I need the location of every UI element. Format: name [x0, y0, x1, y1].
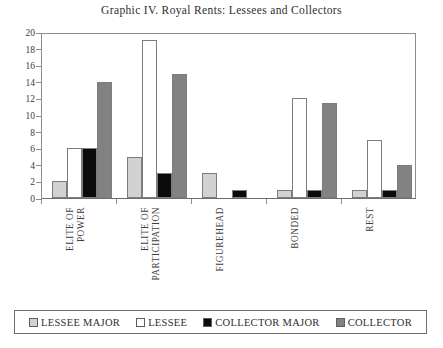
bar [157, 173, 172, 198]
x-axis-tick-mark [116, 199, 117, 204]
y-axis-tick: 14 [0, 77, 41, 89]
bar [232, 190, 247, 198]
x-axis-label: FIGUREHEAD [215, 207, 226, 271]
x-axis-tick-mark [41, 199, 42, 204]
bar [217, 196, 232, 198]
y-axis-tick: 2 [0, 176, 41, 188]
bar [202, 173, 217, 198]
bar [97, 82, 112, 198]
x-axis-label: BONDED [290, 207, 301, 249]
x-axis-label-line: FIGUREHEAD [215, 207, 226, 271]
legend-label: LESSEE [148, 317, 187, 328]
y-axis-tick: 8 [0, 127, 41, 139]
bar [172, 74, 187, 199]
bar [352, 190, 367, 198]
bar [277, 190, 292, 198]
bar [142, 40, 157, 198]
bar [67, 148, 82, 198]
y-axis-tick: 10 [0, 110, 41, 122]
legend-swatch-icon [29, 318, 38, 327]
bar-group [352, 34, 412, 198]
chart-figure: Graphic IV. Royal Rents: Lessees and Col… [0, 0, 443, 348]
bar [367, 140, 382, 198]
bar-group [277, 34, 337, 198]
bar-group [52, 34, 112, 198]
y-axis: 02468101214161820 [0, 33, 41, 199]
y-axis-tick: 4 [0, 160, 41, 172]
bar [127, 157, 142, 199]
x-axis-label-line: ELITE OF [140, 207, 151, 280]
y-axis-tick: 0 [0, 193, 41, 205]
legend-item[interactable]: LESSEE [136, 317, 187, 328]
legend-swatch-icon [136, 318, 145, 327]
x-axis-label-line: BONDED [290, 207, 301, 249]
bar [292, 98, 307, 198]
x-axis-tick-mark [341, 199, 342, 204]
y-axis-tick: 18 [0, 44, 41, 56]
bar [382, 190, 397, 198]
plot-area [41, 33, 416, 199]
x-axis-tick-mark [266, 199, 267, 204]
x-axis-label: ELITE OFPOWER [65, 207, 86, 251]
chart-title: Graphic IV. Royal Rents: Lessees and Col… [0, 4, 443, 16]
x-axis-label: REST [365, 207, 376, 232]
legend-label: LESSEE MAJOR [41, 317, 120, 328]
x-axis-label-line: REST [365, 207, 376, 232]
bar [322, 103, 337, 198]
y-axis-tick: 20 [0, 27, 41, 39]
bar [397, 165, 412, 198]
x-axis-label-line: ELITE OF [65, 207, 76, 251]
legend-item[interactable]: LESSEE MAJOR [29, 317, 120, 328]
legend-item[interactable]: COLLECTOR [336, 317, 412, 328]
legend-item[interactable]: COLLECTOR MAJOR [203, 317, 319, 328]
x-axis-label-line: PARTICIPATION [151, 207, 162, 280]
legend-label: COLLECTOR MAJOR [215, 317, 319, 328]
x-axis-tick-mark [191, 199, 192, 204]
legend-label: COLLECTOR [348, 317, 412, 328]
bar-group [127, 34, 187, 198]
legend-swatch-icon [203, 318, 212, 327]
bar [82, 148, 97, 198]
bar-group [202, 34, 262, 198]
chart-legend: LESSEE MAJORLESSEECOLLECTOR MAJORCOLLECT… [14, 310, 427, 334]
bar [307, 190, 322, 198]
bars-layer [42, 34, 415, 198]
x-axis: ELITE OFPOWERELITE OFPARTICIPATIONFIGURE… [41, 199, 416, 294]
x-axis-label: ELITE OFPARTICIPATION [140, 207, 161, 280]
x-axis-label-line: POWER [76, 207, 87, 251]
legend-swatch-icon [336, 318, 345, 327]
y-axis-tick: 6 [0, 143, 41, 155]
bar [52, 181, 67, 198]
y-axis-tick: 12 [0, 93, 41, 105]
y-axis-tick: 16 [0, 60, 41, 72]
bar [247, 196, 262, 198]
